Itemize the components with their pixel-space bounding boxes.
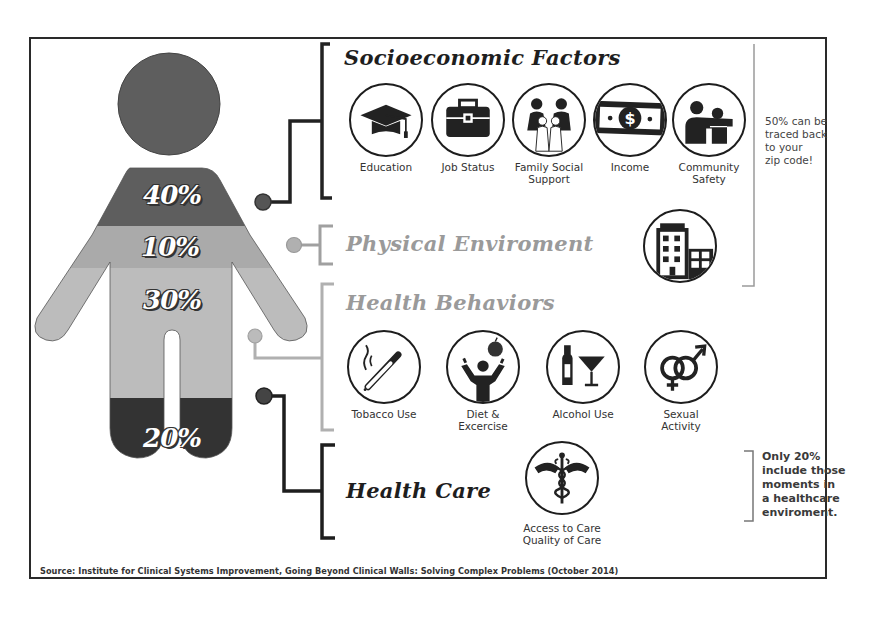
label-income: Income (575, 161, 685, 173)
label-sexual-activity: Sexual Activity (656, 408, 706, 432)
label-job-status: Job Status (413, 161, 523, 173)
percent-physical: 10% (141, 232, 199, 262)
figure-head (118, 53, 220, 155)
note-healthcare-enviroment: Only 20% include those moments in a heal… (762, 450, 846, 520)
percent-healthcare: 20% (143, 423, 201, 453)
title-health-care: Health Care (346, 478, 491, 503)
graduation-cap-icon (349, 83, 423, 157)
physical-connector (300, 226, 333, 264)
svg-text:$: $ (624, 109, 635, 128)
bottle-glass-icon (546, 330, 620, 404)
source-citation: Source: Institute for Clinical Systems I… (40, 566, 618, 576)
caduceus-icon (525, 441, 599, 515)
note-healthcare-line: enviroment. (762, 506, 846, 520)
label-tobacco-use: Tobacco Use (329, 408, 439, 420)
apple-person-icon (446, 330, 520, 404)
cigarette-icon (347, 330, 421, 404)
note-zip-line: 50% can be (765, 115, 827, 128)
title-socioeconomic-factors: Socioeconomic Factors (344, 45, 621, 70)
percent-behaviors: 30% (143, 285, 201, 315)
note-healthcare-line: Only 20% (762, 450, 846, 464)
note-zip-line: zip code! (765, 154, 827, 167)
note-healthcare-line: a healthcare (762, 492, 846, 506)
socioeconomic-connector (268, 44, 332, 202)
label-access-to-care: Access to Care (507, 522, 617, 534)
label-community-safety: Community Safety (674, 161, 744, 185)
healthcare-connector (270, 396, 335, 538)
family-icon (512, 83, 586, 157)
note-zip-code: 50% can be traced back to your zip code! (765, 115, 827, 167)
note-healthcare-line: include those (762, 464, 846, 478)
community-people-icon (672, 83, 746, 157)
buildings-icon (643, 209, 717, 283)
percent-socioeconomic: 40% (143, 180, 201, 210)
label-alcohol-use: Alcohol Use (528, 408, 638, 420)
gender-symbols-icon (644, 330, 718, 404)
dollar-bill-icon: $ (593, 83, 667, 157)
note-healthcare-line: moments in (762, 478, 846, 492)
note-zip-line: to your (765, 141, 827, 154)
title-physical-enviroment: Physical Enviroment (346, 231, 594, 256)
toolbox-icon (431, 83, 505, 157)
healthcare-note-bracket (744, 451, 753, 521)
note-zip-line: traced back (765, 128, 827, 141)
title-health-behaviors: Health Behaviors (346, 290, 555, 315)
label-diet-excercise: Diet & Excercise (453, 408, 513, 432)
label-quality-of-care: Quality of Care (507, 534, 617, 546)
